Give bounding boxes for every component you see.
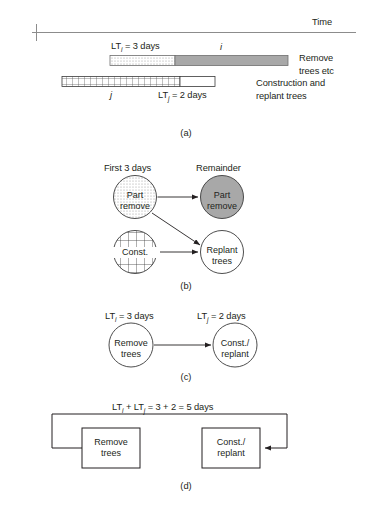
- node-const-replant: [213, 323, 257, 367]
- box-const-replant: [202, 428, 260, 468]
- panel-d-boxes: [52, 414, 287, 468]
- node-remove-trees: [109, 323, 153, 367]
- panel-tag-b: (b): [166, 281, 206, 291]
- bar-activity-i: [110, 56, 288, 66]
- bar-i-activity-label: i: [220, 42, 222, 54]
- bar-j-right-label-line2: replant trees: [256, 91, 307, 103]
- bar-j-right-label-line1: Construction and: [256, 78, 325, 90]
- panel-b-header-left: First 3 days: [104, 163, 151, 175]
- panel-tag-d: (d): [166, 481, 206, 491]
- node-replant-trees: [201, 231, 244, 274]
- bar-i-lead-label: LTi = 3 days: [111, 41, 160, 55]
- panel-c-nodes: [109, 323, 257, 367]
- bar-i-right-label-line1: Remove: [299, 53, 333, 65]
- box-remove-trees: [82, 428, 140, 468]
- panel-tag-a: (a): [166, 128, 206, 138]
- bar-j-lead-label: LTj = 2 days: [158, 90, 207, 104]
- time-axis: [32, 24, 356, 41]
- panel-c-right-lead: LTj = 2 days: [197, 311, 246, 325]
- node-part-remove-first: [114, 176, 157, 219]
- panel-c-left-lead: LTi = 3 days: [105, 311, 154, 325]
- node-part-remove-remainder: [201, 176, 244, 219]
- panel-b-nodes: [114, 176, 244, 274]
- bar-i-right-label-line2: trees etc: [299, 66, 334, 78]
- node-const: [114, 231, 157, 274]
- panel-b-header-right: Remainder: [196, 163, 241, 175]
- panel-tag-c: (c): [166, 372, 206, 382]
- panel-d-equation: LTi + LTj = 3 + 2 = 5 days: [112, 402, 213, 416]
- arrow-first-to-replant: [152, 213, 200, 245]
- bar-j-activity-label: j: [110, 90, 112, 102]
- bar-activity-j: [62, 77, 215, 87]
- time-axis-label: Time: [312, 17, 332, 29]
